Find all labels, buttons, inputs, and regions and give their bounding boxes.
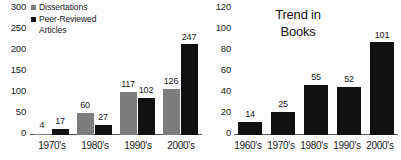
bar-value-books-1980s: 55 bbox=[300, 73, 332, 82]
y-tick-300: 300 bbox=[2, 2, 26, 12]
y-tick-60: 60 bbox=[207, 65, 231, 75]
bar-group-books-1980s: 55 bbox=[300, 25, 333, 135]
legend-label-dissertations: Dissertations bbox=[39, 2, 87, 13]
bar-value-articles-1970s: 17 bbox=[46, 117, 74, 126]
bar-value-dissertations-2000s: 126 bbox=[157, 77, 185, 86]
bar-books-1990s bbox=[337, 87, 361, 135]
bar-group-books-1970s: 25 bbox=[267, 25, 300, 135]
y-tick-40: 40 bbox=[207, 86, 231, 96]
bar-value-books-1990s: 52 bbox=[333, 75, 365, 84]
bar-group-books-2000s: 101 bbox=[366, 25, 399, 135]
bar-value-articles-1980s: 27 bbox=[89, 113, 117, 122]
bar-group-1980s: 60 27 bbox=[73, 25, 116, 135]
y-tick-80: 80 bbox=[207, 44, 231, 54]
bar-value-books-1970s: 25 bbox=[267, 100, 299, 109]
x-label-books-2000s: 2000's bbox=[358, 140, 401, 152]
y-tick-150: 150 bbox=[2, 65, 26, 75]
left-chart-x-axis-labels: 1970's 1980's 1990's 2000's bbox=[30, 140, 202, 156]
y-tick-0: 0 bbox=[2, 128, 26, 138]
y-tick-50: 50 bbox=[2, 107, 26, 117]
right-chart-y-axis: 120 100 80 60 40 20 0 bbox=[203, 0, 231, 140]
bar-dissertations-1970s bbox=[34, 134, 51, 136]
bar-books-2000s bbox=[370, 42, 394, 135]
bar-articles-1980s bbox=[95, 125, 112, 135]
left-chart-y-axis: 300 250 200 150 100 50 0 bbox=[0, 0, 26, 140]
legend-item-dissertations: Dissertations bbox=[31, 2, 87, 13]
legend-swatch-gray-icon bbox=[31, 5, 36, 10]
bar-group-2000s: 126 247 bbox=[159, 25, 202, 135]
bar-group-books-1990s: 52 bbox=[333, 25, 366, 135]
bar-dissertations-1990s bbox=[120, 92, 137, 135]
y-tick-100: 100 bbox=[2, 86, 26, 96]
bar-articles-2000s bbox=[181, 44, 198, 135]
bar-group-1990s: 117 102 bbox=[116, 25, 159, 135]
y-tick-120: 120 bbox=[207, 2, 231, 12]
bar-books-1960s bbox=[238, 122, 262, 135]
x-label-2000s: 2000's bbox=[155, 140, 207, 152]
bar-value-books-2000s: 101 bbox=[366, 31, 398, 40]
bar-value-articles-1990s: 102 bbox=[132, 86, 160, 95]
bar-articles-1990s bbox=[138, 98, 155, 135]
bar-value-books-1960s: 14 bbox=[234, 110, 266, 119]
y-tick-250: 250 bbox=[2, 23, 26, 33]
bar-group-1970s: 4 17 bbox=[30, 25, 73, 135]
bar-value-articles-2000s: 247 bbox=[175, 33, 203, 42]
left-chart-plot-area: 4 17 60 27 117 102 126 2 bbox=[30, 25, 202, 135]
right-chart-plot-area: 14 25 55 52 101 bbox=[234, 25, 398, 135]
figure-two-bar-charts: 300 250 200 150 100 50 0 Dissertations P… bbox=[0, 0, 401, 160]
bar-books-1980s bbox=[304, 85, 328, 135]
y-tick-20: 20 bbox=[207, 107, 231, 117]
bar-dissertations-2000s bbox=[163, 89, 180, 135]
bar-value-dissertations-1980s: 60 bbox=[71, 101, 99, 110]
legend-swatch-black-icon bbox=[31, 17, 36, 22]
chart-title-line-1: Trend in bbox=[246, 6, 350, 23]
bar-group-books-1960s: 14 bbox=[234, 25, 267, 135]
left-bar-chart: 300 250 200 150 100 50 0 Dissertations P… bbox=[0, 0, 205, 160]
right-bar-chart: 120 100 80 60 40 20 0 Trend in Books 14 … bbox=[205, 0, 401, 160]
right-chart-x-axis-labels: 1960's 1970's 1980's 1990's 2000's bbox=[230, 140, 401, 156]
y-tick-0: 0 bbox=[207, 128, 231, 138]
y-tick-100: 100 bbox=[207, 23, 231, 33]
bar-books-1970s bbox=[271, 112, 295, 135]
y-tick-200: 200 bbox=[2, 44, 26, 54]
